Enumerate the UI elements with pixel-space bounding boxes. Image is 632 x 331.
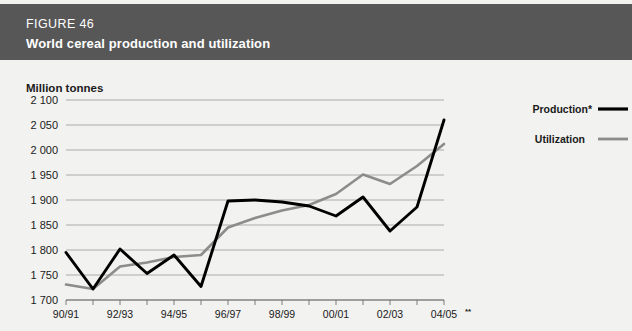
legend-label-utilization: Utilization	[535, 133, 585, 145]
x-tick-labels-group: 90/9192/9394/9596/9798/9900/0102/0304/05…	[53, 307, 472, 320]
x-tick-label: 90/91	[53, 308, 79, 320]
x-tick-label: 94/95	[161, 308, 187, 320]
y-tick-label: 1 700	[30, 294, 58, 306]
figure-title: World cereal production and utilization	[26, 36, 270, 51]
x-tick-label: 98/99	[269, 308, 295, 320]
figure-panel: FIGURE 46 World cereal production and ut…	[0, 0, 632, 331]
chart-body: Million tonnes 2 1002 0502 0001 9501 900…	[0, 60, 632, 331]
y-tick-label: 1 800	[30, 244, 58, 256]
y-tick-label: 1 900	[30, 194, 58, 206]
y-tick-label: 1 850	[30, 219, 58, 231]
y-tick-label: 2 000	[30, 144, 58, 156]
figure-number: FIGURE 46	[26, 17, 94, 31]
legend: Production* Utilization	[533, 103, 629, 145]
production-line	[66, 120, 444, 289]
x-tick-label-superscript: **	[465, 307, 472, 316]
utilization-line	[66, 144, 444, 289]
y-tick-label: 1 750	[30, 269, 58, 281]
y-tick-labels-group: 2 1002 0502 0001 9501 9001 8501 8001 750…	[30, 94, 58, 306]
y-tick-label: 1 950	[30, 169, 58, 181]
x-tick-label: 92/93	[107, 308, 133, 320]
y-tick-label: 2 100	[30, 94, 58, 106]
y-tick-label: 2 050	[30, 119, 58, 131]
x-tick-label: 96/97	[215, 308, 241, 320]
figure-header-bar: FIGURE 46 World cereal production and ut…	[0, 4, 632, 60]
x-tick-marks-group	[66, 300, 444, 305]
x-tick-label: 02/03	[377, 308, 403, 320]
x-tick-label: 00/01	[323, 308, 349, 320]
legend-label-production: Production*	[533, 103, 593, 115]
line-chart: 2 1002 0502 0001 9501 9001 8501 8001 750…	[0, 60, 632, 331]
x-tick-label: 04/05	[431, 308, 457, 320]
